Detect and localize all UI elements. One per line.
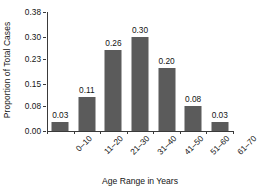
bar-value-label: 0.11 [79,86,95,95]
bar [185,106,202,131]
x-axis-category-label: 51–60 [209,134,232,157]
bar-group: 0.11 [74,12,101,131]
y-axis-tick-label: 0.15 [17,80,41,88]
bar-group: 0.08 [180,12,207,131]
bar-group: 0.03 [47,12,74,131]
x-axis-category-label: 41–50 [182,134,205,157]
y-axis-tick-mark [43,106,46,107]
plot-area: 0.030.110.260.300.200.080.03 [47,12,233,131]
bar [52,122,69,131]
bar-group: 0.26 [100,12,127,131]
y-axis-title: Proportion of Total Cases [0,0,15,140]
bar-value-label: 0.20 [158,57,174,66]
y-axis-tick-mark [43,12,46,13]
bar-group: 0.20 [153,12,180,131]
bar-value-label: 0.30 [132,26,148,35]
y-axis-tick-label: 0.38 [17,8,41,16]
y-axis-tick-label: 0.30 [17,33,41,41]
y-axis-tick-label: 0.08 [17,102,41,110]
bar [211,122,228,131]
bar-value-label: 0.26 [105,39,121,48]
bar-chart: Proportion of Total Cases 0.000.080.150.… [0,0,257,196]
bar-value-label: 0.08 [185,95,201,104]
x-axis-category-label: 31–40 [156,134,179,157]
bar [158,68,175,131]
bar-group: 0.30 [127,12,154,131]
bar [105,50,122,131]
y-axis-tick-label: 0.23 [17,55,41,63]
bar [131,37,148,131]
y-axis-tick-mark [43,84,46,85]
y-axis-tick-labels: 0.000.080.150.230.300.38 [14,0,41,196]
y-axis-tick-label: 0.00 [17,127,41,135]
x-axis-category-label: 0–10 [75,134,94,153]
bar-value-label: 0.03 [52,111,68,120]
x-axis-category-label: 61–70 [235,134,257,157]
x-axis-title: Age Range in Years [47,176,233,186]
y-axis-tick-mark [43,59,46,60]
bar-value-label: 0.03 [212,111,228,120]
x-axis-category-label: 21–30 [129,134,152,157]
y-axis-title-text: Proportion of Total Cases [3,22,13,118]
x-axis-category-labels: 0–1011–2021–3031–4041–5051–6061–70 [47,134,237,172]
x-axis-category-label: 11–20 [102,134,124,156]
bar [78,97,95,131]
y-axis-tick-mark [43,131,46,132]
y-axis-tick-mark [43,37,46,38]
bar-group: 0.03 [206,12,233,131]
